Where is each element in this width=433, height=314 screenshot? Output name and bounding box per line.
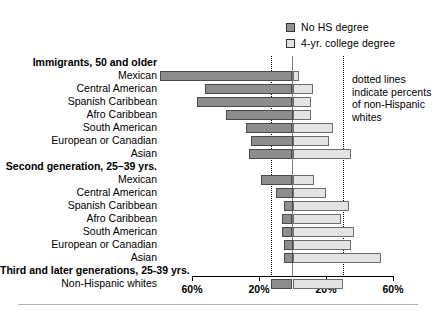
bar-college-degree	[293, 188, 327, 198]
bar-college-degree	[293, 279, 343, 289]
bar-college-degree	[293, 214, 342, 224]
category-label: South American	[0, 225, 160, 238]
bar-college-degree	[293, 110, 311, 120]
bar-no-hs-degree	[226, 110, 293, 120]
bar-no-hs-degree	[261, 175, 293, 185]
chart-row: Spanish Caribbean	[0, 95, 433, 108]
bar-college-degree	[293, 201, 350, 211]
bar-college-degree	[293, 175, 315, 185]
bar-no-hs-degree	[160, 71, 292, 81]
tornado-chart: No HS degree 4-yr. college degree dotted…	[0, 0, 433, 314]
bar-college-degree	[293, 253, 382, 263]
category-label: Central American	[0, 82, 160, 95]
chart-row: European or Canadian	[0, 238, 433, 251]
bar-no-hs-degree	[284, 240, 292, 250]
footer-divider	[18, 304, 418, 305]
group-heading-label: Immigrants, 50 and older	[0, 56, 160, 69]
bar-no-hs-degree	[249, 149, 293, 159]
category-label: European or Canadian	[0, 238, 160, 251]
bar-college-degree	[293, 84, 313, 94]
category-label: Mexican	[0, 173, 160, 186]
category-label: Afro Caribbean	[0, 212, 160, 225]
chart-row: Asian	[0, 147, 433, 160]
group-heading-label: Second generation, 25–39 yrs.	[0, 160, 160, 173]
chart-row: South American	[0, 225, 433, 238]
chart-row: Central American	[0, 82, 433, 95]
chart-row: Mexican	[0, 69, 433, 82]
category-label: South American	[0, 121, 160, 134]
chart-row: Afro Caribbean	[0, 108, 433, 121]
bar-no-hs-degree	[197, 97, 292, 107]
chart-row: Non-Hispanic whites	[0, 277, 433, 290]
category-label: Mexican	[0, 69, 160, 82]
bar-no-hs-degree	[284, 253, 292, 263]
chart-row: Mexican	[0, 173, 433, 186]
chart-row: European or Canadian	[0, 134, 433, 147]
group-heading-row: Second generation, 25–39 yrs.	[0, 160, 433, 173]
bar-no-hs-degree	[284, 201, 292, 211]
bar-college-degree	[293, 123, 333, 133]
bar-no-hs-degree	[205, 84, 292, 94]
bar-no-hs-degree	[246, 123, 293, 133]
group-heading-label: Third and later generations, 25-39 yrs.	[0, 264, 160, 277]
bar-no-hs-degree	[271, 279, 293, 289]
bar-college-degree	[293, 71, 300, 81]
category-label: Asian	[0, 147, 160, 160]
bar-college-degree	[293, 136, 330, 146]
bar-college-degree	[293, 240, 352, 250]
bar-no-hs-degree	[251, 136, 293, 146]
bar-college-degree	[293, 149, 352, 159]
bar-no-hs-degree	[276, 188, 293, 198]
chart-row: Central American	[0, 186, 433, 199]
category-label: Non-Hispanic whites	[0, 277, 160, 290]
bar-no-hs-degree	[282, 214, 292, 224]
category-label: Spanish Caribbean	[0, 199, 160, 212]
chart-row: Asian	[0, 251, 433, 264]
bar-college-degree	[293, 227, 355, 237]
group-heading-row: Immigrants, 50 and older	[0, 56, 433, 69]
plot-area: 60%20%20%60%Immigrants, 50 and olderMexi…	[0, 0, 433, 314]
category-label: Asian	[0, 251, 160, 264]
group-heading-row: Third and later generations, 25-39 yrs.	[0, 264, 433, 277]
category-label: Spanish Caribbean	[0, 95, 160, 108]
chart-row: Afro Caribbean	[0, 212, 433, 225]
category-label: European or Canadian	[0, 134, 160, 147]
category-label: Afro Caribbean	[0, 108, 160, 121]
chart-row: Spanish Caribbean	[0, 199, 433, 212]
chart-row: South American	[0, 121, 433, 134]
bar-college-degree	[293, 97, 311, 107]
bar-no-hs-degree	[282, 227, 292, 237]
category-label: Central American	[0, 186, 160, 199]
